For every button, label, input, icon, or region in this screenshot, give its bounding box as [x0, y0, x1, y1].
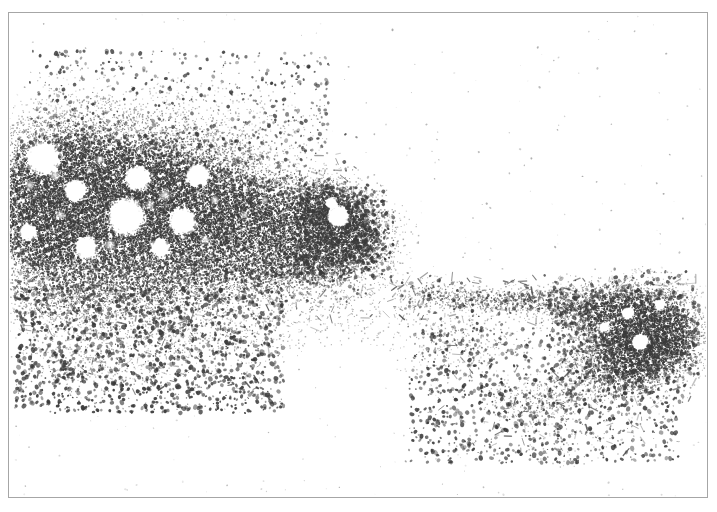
- micrograph-figure: [0, 0, 717, 512]
- plate-frame: [8, 12, 708, 498]
- micrograph-canvas: [9, 13, 707, 497]
- micrograph-image: [9, 13, 707, 497]
